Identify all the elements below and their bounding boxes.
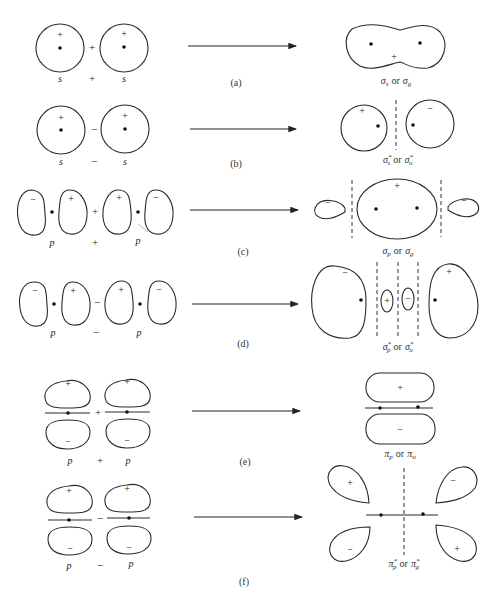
svg-text:−: − bbox=[450, 475, 456, 486]
svg-text:+: + bbox=[359, 105, 365, 116]
svg-text:s: s bbox=[123, 156, 127, 167]
row-c: − + + + − p + p (c) − + − bbox=[18, 179, 479, 258]
result-label: π*porπ*g bbox=[389, 557, 420, 571]
svg-text:+: + bbox=[124, 376, 130, 387]
svg-text:+: + bbox=[397, 382, 403, 393]
mo-diagram: + + + s + s (a) + σsorσg + − bbox=[0, 0, 498, 594]
svg-text:+: + bbox=[66, 485, 72, 496]
pi-bonding: + − bbox=[365, 373, 435, 444]
svg-text:+: + bbox=[347, 477, 353, 488]
svg-text:p: p bbox=[67, 455, 73, 466]
s-orbital-left: + bbox=[36, 24, 84, 72]
row-tag: (f) bbox=[239, 576, 249, 588]
svg-text:+: + bbox=[89, 72, 95, 84]
svg-text:+: + bbox=[95, 406, 101, 418]
svg-text:+: + bbox=[384, 295, 390, 306]
svg-text:+: + bbox=[65, 378, 71, 389]
svg-text:s: s bbox=[59, 156, 63, 167]
svg-text:−: − bbox=[30, 194, 36, 205]
svg-text:+: + bbox=[92, 205, 98, 217]
svg-text:−: − bbox=[67, 543, 73, 554]
s-orbital-right: + bbox=[101, 105, 149, 153]
svg-text:−: − bbox=[126, 542, 132, 553]
row-f: + − − + − p − p (f) + − − + bbox=[47, 466, 477, 588]
svg-text:+: + bbox=[58, 112, 64, 123]
svg-text:p: p bbox=[50, 327, 56, 338]
svg-text:−: − bbox=[93, 326, 99, 338]
svg-text:−: − bbox=[91, 123, 97, 135]
svg-text:s: s bbox=[58, 73, 62, 84]
row-a: + + + s + s (a) + σsorσg bbox=[36, 24, 445, 89]
row-tag: (b) bbox=[230, 158, 242, 170]
s-orbital-right: + bbox=[100, 24, 148, 72]
s-orbital-left: + bbox=[37, 106, 85, 154]
svg-text:+: + bbox=[391, 51, 397, 62]
result-label: πporπu bbox=[384, 448, 416, 461]
svg-text:s: s bbox=[122, 73, 126, 84]
svg-text:+: + bbox=[118, 284, 124, 295]
svg-text:+: + bbox=[92, 236, 98, 248]
result-label: σsorσg bbox=[381, 75, 412, 88]
svg-text:−: − bbox=[65, 436, 71, 447]
result-label: σ*porσ*u bbox=[383, 340, 414, 354]
svg-text:p: p bbox=[128, 558, 134, 569]
svg-text:+: + bbox=[124, 483, 130, 494]
p-orbital-right: + − bbox=[105, 483, 151, 554]
svg-text:−: − bbox=[156, 284, 162, 295]
svg-text:+: + bbox=[70, 285, 76, 296]
row-tag: (c) bbox=[237, 246, 248, 258]
svg-text:p: p bbox=[136, 327, 142, 338]
row-e: + − + + − p + p (e) + − πporπu bbox=[45, 373, 435, 468]
pi-antibonding: + − − + bbox=[328, 466, 477, 562]
sigma-antibonding-p: − + − + bbox=[312, 262, 478, 338]
svg-text:−: − bbox=[97, 559, 103, 571]
sigma-bonding-s: + bbox=[346, 25, 445, 69]
svg-text:+: + bbox=[446, 266, 452, 277]
svg-text:−: − bbox=[124, 435, 130, 446]
svg-text:p: p bbox=[135, 235, 141, 246]
svg-text:−: − bbox=[153, 192, 159, 203]
svg-text:−: − bbox=[91, 155, 97, 167]
svg-text:p: p bbox=[125, 455, 131, 466]
svg-text:−: − bbox=[347, 544, 353, 555]
svg-text:−: − bbox=[32, 285, 38, 296]
sigma-bonding-p: − + − bbox=[315, 179, 479, 239]
svg-text:+: + bbox=[394, 180, 400, 191]
svg-text:p: p bbox=[66, 560, 72, 571]
svg-text:−: − bbox=[427, 103, 433, 114]
svg-text:+: + bbox=[121, 28, 127, 39]
svg-text:+: + bbox=[57, 29, 63, 40]
p-orbital-left: − + bbox=[20, 282, 91, 326]
p-orbital-right: + − bbox=[105, 281, 176, 324]
svg-text:+: + bbox=[116, 192, 122, 203]
p-orbital-right: + − bbox=[103, 190, 173, 234]
result-label: σporσg bbox=[382, 245, 414, 258]
row-tag: (e) bbox=[239, 456, 250, 468]
sigma-antibonding-s: + − bbox=[341, 100, 454, 151]
svg-text:+: + bbox=[97, 454, 103, 466]
svg-text:−: − bbox=[405, 293, 411, 304]
svg-text:−: − bbox=[97, 512, 103, 524]
p-orbital-left: + − bbox=[45, 378, 90, 449]
svg-text:+: + bbox=[454, 543, 460, 554]
svg-text:−: − bbox=[342, 267, 348, 278]
svg-text:−: − bbox=[325, 197, 331, 208]
row-tag: (d) bbox=[237, 338, 249, 350]
result-label: σ*sorσ*u bbox=[383, 153, 413, 167]
svg-text:−: − bbox=[461, 195, 467, 206]
svg-text:−: − bbox=[397, 424, 403, 435]
p-orbital-left: + − bbox=[47, 485, 92, 555]
svg-text:+: + bbox=[122, 110, 128, 121]
operator: + bbox=[89, 41, 95, 53]
svg-text:−: − bbox=[94, 296, 100, 308]
svg-text:+: + bbox=[68, 193, 74, 204]
p-orbital-left: − + bbox=[18, 190, 88, 235]
p-orbital-right: + − bbox=[105, 376, 150, 448]
svg-text:p: p bbox=[49, 237, 55, 248]
row-tag: (a) bbox=[230, 77, 241, 89]
row-d: − + − + − p − p (d) − + − + bbox=[20, 262, 478, 354]
row-b: + − + s − s (b) + − σ*sorσ*u bbox=[37, 100, 454, 170]
